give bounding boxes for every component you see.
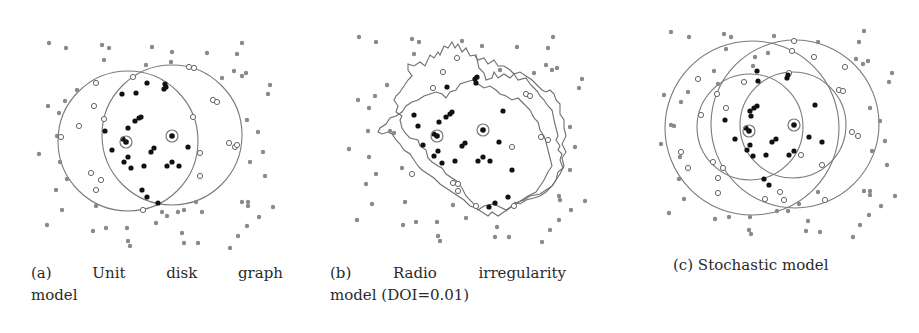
caption-c-line1: (c) Stochastic model xyxy=(673,254,903,276)
stochastic-model-plot xyxy=(610,0,919,250)
caption-a-line2: model xyxy=(31,284,283,306)
open-nodes xyxy=(58,64,239,212)
caption-b: (b) Radio irregularity model (DOI=0.01) xyxy=(330,262,566,306)
caption-b-word: Radio xyxy=(393,262,437,284)
caption-a-line1: (a) Unit disk graph xyxy=(31,262,283,284)
panel-b-radio-irregularity xyxy=(320,0,620,250)
caption-a: (a) Unit disk graph model xyxy=(31,262,283,306)
radio-irregularity-plot xyxy=(320,0,620,250)
panel-a-unit-disk xyxy=(0,0,310,250)
gray-nodes xyxy=(347,35,587,244)
panel-c-stochastic xyxy=(610,0,919,250)
caption-b-line1: (b) Radio irregularity xyxy=(330,262,566,284)
caption-b-word: irregularity xyxy=(478,262,566,284)
gray-nodes xyxy=(659,29,897,239)
caption-a-word: disk xyxy=(166,262,197,284)
black-nodes xyxy=(722,68,824,187)
caption-b-continuation: model (DOI=0.01) xyxy=(330,284,469,306)
caption-b-word: (b) xyxy=(330,262,351,284)
unit-disk-graph-plot xyxy=(0,0,310,250)
anchor-nodes xyxy=(743,119,800,137)
caption-a-continuation: model xyxy=(31,284,78,306)
caption-a-word: (a) xyxy=(31,262,52,284)
range-circles xyxy=(58,65,242,211)
caption-c-text: (c) Stochastic model xyxy=(673,254,828,276)
anchor-nodes xyxy=(431,124,489,142)
caption-a-word: graph xyxy=(238,262,283,284)
black-nodes xyxy=(102,80,190,205)
caption-c: (c) Stochastic model xyxy=(673,254,903,276)
anchor-nodes xyxy=(120,130,178,148)
open-nodes xyxy=(678,38,860,202)
irregular-boundaries xyxy=(378,42,566,216)
caption-a-word: Unit xyxy=(92,262,125,284)
caption-b-line2: model (DOI=0.01) xyxy=(330,284,566,306)
